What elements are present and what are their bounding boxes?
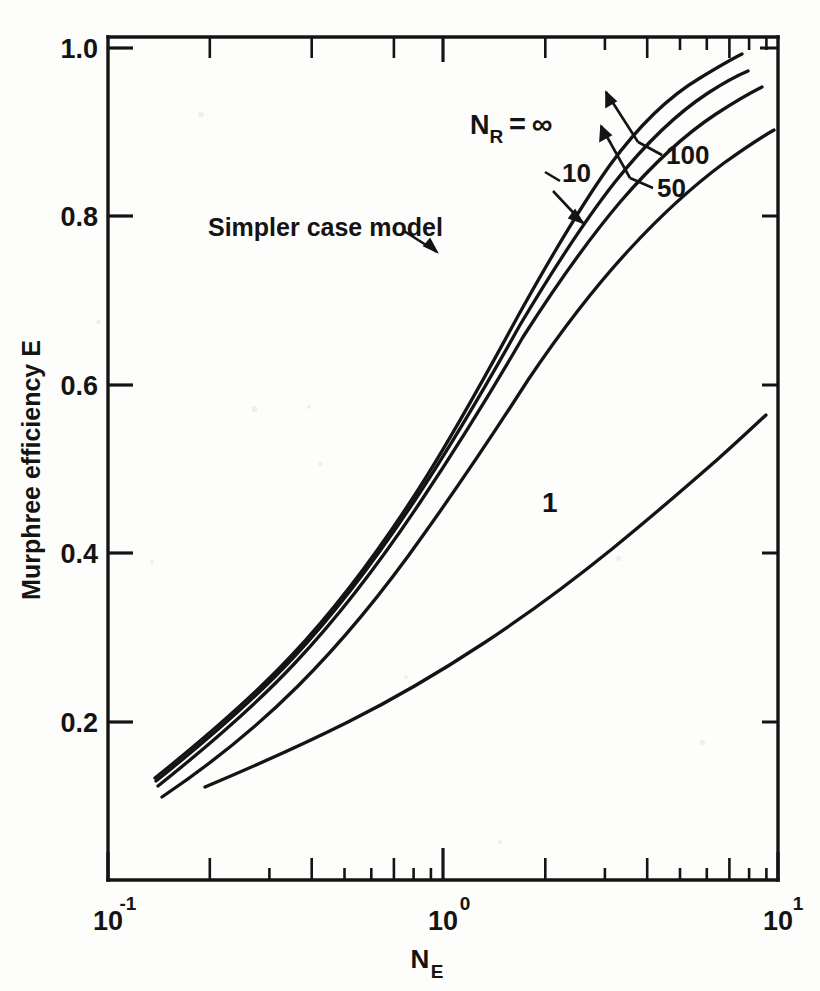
y-tick-labels: 1.0 0.8 0.6 0.4 0.2 bbox=[60, 34, 98, 738]
annotation-nr-1: 1 bbox=[542, 487, 558, 518]
x-axis-minor-ticks-bottom bbox=[210, 858, 767, 880]
x-tick-mantissa: 10 bbox=[93, 906, 123, 936]
x-tick-label-decade: 10 -1 bbox=[93, 893, 137, 936]
y-tick-label: 1.0 bbox=[60, 34, 98, 64]
curve-nr-infinity bbox=[155, 54, 742, 778]
leader-line-nr-10 bbox=[545, 172, 560, 181]
x-tick-labels: 10 -1 10 0 10 1 bbox=[93, 893, 804, 936]
figure-root: 1.0 0.8 0.6 0.4 0.2 Murphree efficiency … bbox=[0, 0, 820, 991]
y-tick-label: 0.2 bbox=[60, 708, 98, 738]
x-tick-mantissa: 10 bbox=[428, 906, 458, 936]
curve-nr-1 bbox=[205, 415, 766, 787]
annotation-nr-100-label: 100 bbox=[666, 140, 709, 170]
y-tick-label: 0.8 bbox=[60, 202, 98, 232]
chart-canvas: 1.0 0.8 0.6 0.4 0.2 Murphree efficiency … bbox=[0, 0, 820, 991]
annotation-nr-1-label: 1 bbox=[542, 487, 558, 518]
y-axis-title-group: Murphree efficiency E bbox=[17, 340, 45, 600]
annotation-nr-10-label: 10 bbox=[562, 158, 591, 188]
annotation-nr-infinity-label: NR = ∞ bbox=[470, 108, 552, 147]
x-tick-mantissa: 10 bbox=[763, 906, 793, 936]
annotation-nr-infinity: NR = ∞ bbox=[470, 108, 552, 147]
annotation-simpler-case-model-label: Simpler case model bbox=[208, 213, 443, 241]
x-axis-minor-ticks-top bbox=[210, 37, 767, 58]
x-tick-exponent: -1 bbox=[120, 893, 137, 914]
annotation-nr-10: 10 bbox=[545, 158, 591, 223]
x-tick-label-decade: 10 0 bbox=[428, 893, 470, 936]
y-tick-label: 0.4 bbox=[60, 539, 98, 569]
x-axis-title: N bbox=[411, 944, 430, 974]
annotation-nr-50-label: 50 bbox=[657, 173, 686, 203]
annotation-simpler-case-model: Simpler case model bbox=[208, 213, 443, 252]
x-tick-exponent: 0 bbox=[460, 893, 471, 914]
x-axis-title-group: N E bbox=[411, 944, 444, 982]
x-axis-title-subscript: E bbox=[431, 961, 444, 982]
y-axis-ticks-right bbox=[760, 48, 778, 722]
y-tick-label: 0.6 bbox=[60, 371, 98, 401]
y-axis-ticks bbox=[108, 48, 133, 722]
x-tick-label-decade: 10 1 bbox=[763, 893, 804, 936]
x-tick-exponent: 1 bbox=[793, 893, 804, 914]
y-axis-title: Murphree efficiency E bbox=[17, 340, 45, 600]
